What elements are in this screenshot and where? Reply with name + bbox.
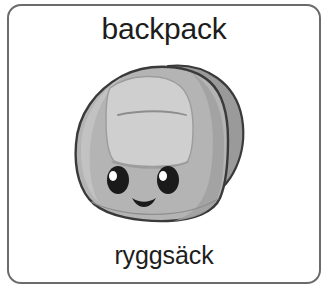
left-eye: [107, 166, 129, 194]
right-eye-group: [157, 166, 179, 194]
backpack-illustration: [64, 58, 264, 228]
backpack-top-pocket: [106, 76, 193, 166]
english-word-label: backpack: [9, 12, 319, 46]
swedish-word-label: ryggsäck: [9, 240, 319, 270]
right-eye-highlight-icon: [159, 171, 167, 181]
left-eye-highlight-icon: [109, 171, 117, 181]
vocabulary-flashcard: backpack: [7, 4, 321, 284]
left-eye-group: [107, 166, 129, 194]
right-eye: [157, 166, 179, 194]
